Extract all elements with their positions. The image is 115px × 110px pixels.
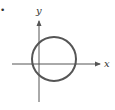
circle-on-axes-diagram: • y x bbox=[0, 0, 115, 110]
problem-marker: • bbox=[0, 5, 5, 15]
y-axis-label: y bbox=[35, 5, 42, 16]
x-axis-label: x bbox=[104, 58, 110, 69]
